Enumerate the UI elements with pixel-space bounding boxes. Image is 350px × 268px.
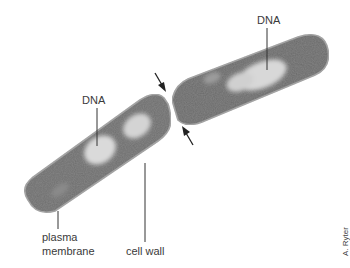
bacterium-cells (25, 35, 329, 212)
image-credit: A. Ryter (341, 227, 350, 256)
dna-label-left: DNA (82, 94, 105, 107)
cell-wall-label: cell wall (126, 245, 165, 258)
plasma-membrane-label-line2: membrane (42, 245, 95, 258)
dna-label-top: DNA (257, 14, 280, 27)
plasma-membrane-label-line1: plasma (42, 231, 77, 244)
micrograph-figure (0, 0, 350, 268)
constriction-arrow-bottom (182, 126, 193, 145)
constriction-arrow-top (155, 73, 166, 92)
